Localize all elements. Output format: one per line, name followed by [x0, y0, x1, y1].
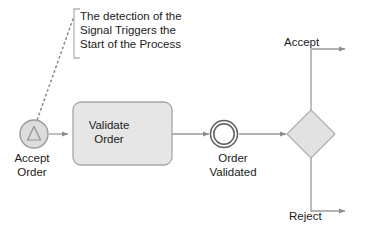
- start-event-label: Accept Order: [2, 152, 62, 179]
- bpmn-diagram-canvas: The detection of the Signal Triggers the…: [0, 0, 369, 240]
- intermediate-event-label: Order Validated: [195, 152, 271, 179]
- annotation-text: The detection of the Signal Triggers the…: [80, 9, 206, 51]
- task-label: Validate Order: [74, 118, 144, 146]
- sequence-flow-reject: [311, 158, 345, 211]
- gateway-shape[interactable]: [287, 110, 335, 158]
- sequence-flow-accept: [311, 49, 345, 110]
- reject-flow-label: Reject: [289, 210, 339, 224]
- accept-flow-label: Accept: [284, 36, 334, 50]
- start-event-shape[interactable]: [20, 120, 48, 148]
- intermediate-event-shape[interactable]: [211, 121, 238, 148]
- association-connector-dotted: [35, 19, 73, 126]
